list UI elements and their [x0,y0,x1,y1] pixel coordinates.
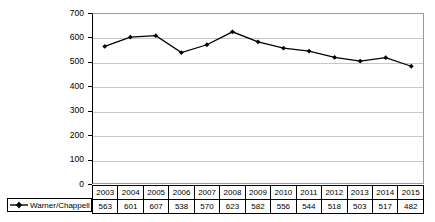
table-cell-year: 2004 [118,186,143,200]
table-cell-value: 563 [93,200,118,214]
data-point-marker [205,42,210,47]
data-point-marker [128,35,133,40]
table-cell-value: 538 [169,200,194,214]
data-point-marker [358,59,363,64]
table-cell-year: 2007 [194,186,219,200]
table-cell-value: 518 [322,200,347,214]
series-warner-chappell [92,13,424,184]
line-chart: in million US$ 7006005004003002001000 20… [0,0,435,222]
y-tick-label: 200 [70,131,84,140]
plot-area-wrapper [92,13,424,184]
table-cell-year: 2014 [372,186,397,200]
table-cell-year: 2013 [347,186,372,200]
table-cell-value: 544 [296,200,321,214]
series-line [105,32,411,66]
table-cell-year: 2010 [271,186,296,200]
y-tick-label: 300 [70,106,84,115]
data-point-marker [102,44,107,49]
line-diamond-marker-icon [8,199,30,211]
table-cell-value: 623 [220,200,245,214]
table-cell-value: 503 [347,200,372,214]
data-table: 2003200420052006200720082009201020112012… [92,185,424,214]
data-point-marker [230,29,235,34]
data-point-marker [383,55,388,60]
legend: Warner/Chappell [7,198,92,212]
table-cell-value: 607 [143,200,168,214]
y-tick-label: 0 [79,180,84,189]
table-cell-year: 2015 [398,186,424,200]
table-cell-value: 556 [271,200,296,214]
y-tick-label: 400 [70,82,84,91]
data-point-marker [409,64,414,69]
table-cell-value: 601 [118,200,143,214]
table-cell-value: 482 [398,200,424,214]
y-tick-label: 700 [70,9,84,18]
table-cell-value: 570 [194,200,219,214]
table-cell-year: 2008 [220,186,245,200]
table-cell-value: 517 [372,200,397,214]
table-cell-year: 2003 [93,186,118,200]
y-tick-label: 600 [70,33,84,42]
table-cell-year: 2011 [296,186,321,200]
y-tick-label: 100 [70,155,84,164]
table-cell-year: 2009 [245,186,270,200]
y-axis: 7006005004003002001000 [0,13,92,184]
data-point-marker [332,55,337,60]
table-cell-year: 2012 [322,186,347,200]
table-row-values: 563601607538570623582556544518503517482 [93,200,424,214]
table-cell-year: 2006 [169,186,194,200]
table-cell-year: 2005 [143,186,168,200]
y-tick-label: 500 [70,57,84,66]
data-table-wrapper: 2003200420052006200720082009201020112012… [92,185,424,214]
data-point-marker [256,39,261,44]
legend-label-warner-chappell: Warner/Chappell [30,201,92,210]
table-cell-value: 582 [245,200,270,214]
data-point-marker [281,46,286,51]
data-point-marker [307,49,312,54]
table-row-years: 2003200420052006200720082009201020112012… [93,186,424,200]
